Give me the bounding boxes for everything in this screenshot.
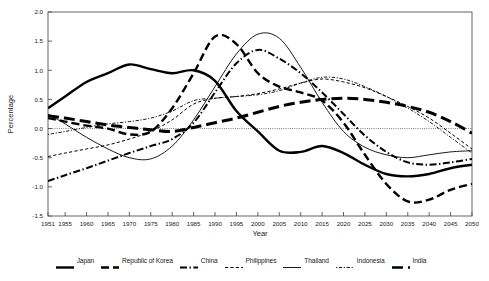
y-tick-label: -0.5 [32, 154, 43, 161]
x-tick-label: 1965 [101, 220, 115, 227]
y-tick-label: 1.0 [34, 67, 43, 74]
legend-label: China [201, 257, 218, 264]
x-tick-label: 1955 [58, 220, 72, 227]
series-line-thailand [48, 33, 472, 160]
legend-label: Japan [77, 257, 94, 264]
legend-label: Philippines [246, 257, 277, 264]
x-tick-label: 2025 [358, 220, 372, 227]
x-tick-label: 2000 [251, 220, 265, 227]
x-tick-label: 2030 [379, 220, 393, 227]
legend-swatch-icon [225, 257, 243, 264]
x-tick-label: 1995 [230, 220, 244, 227]
y-tick-label: -1.5 [32, 212, 43, 219]
series-line-india [48, 98, 472, 133]
y-axis-title: Percentage [6, 95, 15, 133]
x-tick-label: 2020 [337, 220, 351, 227]
plot-frame [48, 12, 472, 216]
y-tick-label: -1.0 [32, 183, 43, 190]
x-tick-label: 2010 [294, 220, 308, 227]
legend-label: Indonesia [357, 257, 385, 264]
legend-item-china[interactable]: China [180, 257, 218, 264]
x-tick-label: 2040 [422, 220, 436, 227]
x-axis-title: Year [252, 229, 268, 238]
legend-item-indonesia[interactable]: Indonesia [336, 257, 385, 264]
legend-swatch-icon [180, 257, 198, 264]
series-line-philippines [48, 79, 472, 157]
legend-item-philippines[interactable]: Philippines [225, 257, 277, 264]
x-tick-label: 1975 [144, 220, 158, 227]
legend-swatch-icon [56, 257, 74, 264]
chart-container: 2.01.51.00.50.0-0.5-1.0-1.51951195519601… [0, 0, 489, 281]
x-tick-label: 1951 [41, 220, 55, 227]
line-chart: 2.01.51.00.50.0-0.5-1.0-1.51951195519601… [0, 0, 489, 281]
y-tick-label: 1.5 [34, 37, 43, 44]
legend-label: Thailand [304, 257, 329, 264]
x-tick-label: 2050 [465, 220, 479, 227]
legend-label: Republic of Korea [122, 257, 173, 264]
x-tick-label: 1990 [208, 220, 222, 227]
legend-label: India [413, 257, 427, 264]
legend-item-thailand[interactable]: Thailand [283, 257, 329, 264]
y-tick-label: 0.5 [34, 96, 43, 103]
x-tick-label: 2045 [444, 220, 458, 227]
legend-swatch-icon [283, 257, 301, 264]
x-tick-label: 2035 [401, 220, 415, 227]
y-tick-label: 0.0 [34, 125, 43, 132]
x-tick-label: 1970 [122, 220, 136, 227]
x-tick-label: 1985 [187, 220, 201, 227]
legend-item-japan[interactable]: Japan [56, 257, 94, 264]
x-tick-label: 2005 [272, 220, 286, 227]
series-line-indonesia [48, 77, 472, 153]
legend-item-india[interactable]: India [392, 257, 427, 264]
x-tick-label: 2015 [315, 220, 329, 227]
chart-legend: JapanRepublic of KoreaChinaPhilippinesTh… [0, 252, 489, 268]
x-tick-label: 1960 [80, 220, 94, 227]
legend-swatch-icon [101, 257, 119, 264]
legend-item-republic-of-korea[interactable]: Republic of Korea [101, 257, 173, 264]
legend-swatch-icon [392, 257, 410, 264]
legend-swatch-icon [336, 257, 354, 264]
series-group [48, 33, 472, 203]
series-line-china [48, 50, 472, 181]
x-tick-label: 1980 [165, 220, 179, 227]
y-tick-label: 2.0 [34, 8, 43, 15]
